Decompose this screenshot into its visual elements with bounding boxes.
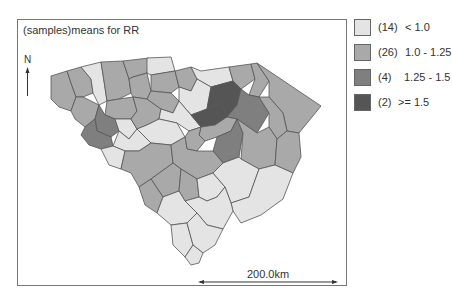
legend-swatch	[354, 19, 371, 36]
county-laurens	[105, 97, 137, 119]
legend-swatch	[354, 44, 371, 61]
scale-bar: 200.0km	[198, 268, 338, 286]
legend-count: (14)	[378, 21, 398, 33]
legend-count: (2)	[378, 96, 391, 108]
county-map	[18, 20, 348, 287]
county-chester	[151, 71, 179, 93]
legend-range: < 1.0	[405, 21, 430, 33]
legend-item-class1: (14) < 1.0	[354, 19, 452, 37]
legend-swatch	[354, 69, 371, 86]
legend-item-class3: (4) 1.25 - 1.5	[354, 69, 452, 87]
legend-item-class4: (2) >= 1.5	[354, 94, 452, 112]
legend-count: (26)	[378, 46, 398, 58]
legend-swatch	[354, 94, 371, 111]
legend-count: (4)	[378, 71, 391, 83]
map-frame: (samples)means for RR N	[17, 19, 347, 286]
legend-range: 1.25 - 1.5	[404, 71, 450, 83]
legend-range: 1.0 - 1.25	[405, 46, 451, 58]
scale-arrow-icon	[198, 268, 338, 286]
legend-range: >= 1.5	[398, 96, 429, 108]
legend-item-class2: (26) 1.0 - 1.25	[354, 44, 452, 62]
